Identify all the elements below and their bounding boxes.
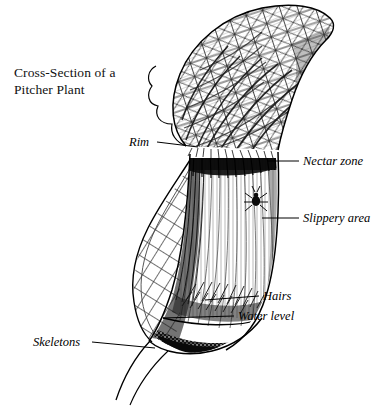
label-water-level: Water level bbox=[238, 309, 294, 324]
figure-title: Cross-Section of a Pitcher Plant bbox=[14, 64, 204, 98]
stem bbox=[116, 341, 168, 405]
label-nectar-zone: Nectar zone bbox=[303, 154, 363, 169]
label-skeletons: Skeletons bbox=[33, 335, 80, 350]
leader-skeletons bbox=[92, 342, 155, 348]
label-slippery-area: Slippery area bbox=[303, 211, 370, 226]
label-rim: Rim bbox=[129, 135, 149, 150]
illustration-page: Cross-Section of a Pitcher Plant Rim Nec… bbox=[0, 0, 390, 407]
label-hairs: Hairs bbox=[263, 289, 291, 304]
